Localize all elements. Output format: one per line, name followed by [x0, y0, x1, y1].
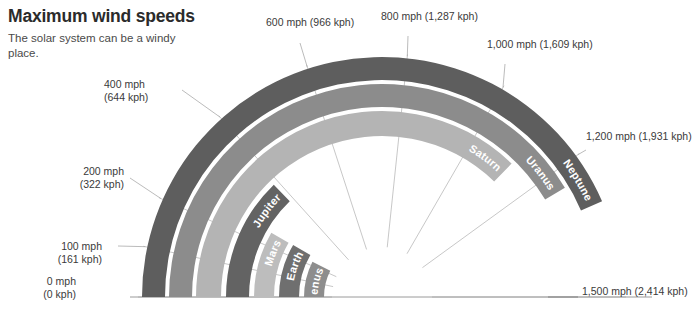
axis-tick-400: 400 mph (644 kph)	[104, 78, 194, 103]
axis-tick-200-mph: 200 mph	[83, 165, 124, 177]
axis-tick-1200-mph: 1,200 mph	[586, 130, 636, 142]
axis-tick-1200: 1,200 mph (1,931 kph)	[586, 130, 686, 143]
leader-line-1200	[578, 150, 586, 155]
axis-tick-800-kph: (1,287 kph)	[425, 10, 478, 22]
axis-tick-100-mph: 100 mph	[61, 240, 102, 252]
leader-line-200	[130, 178, 161, 199]
gridline-800	[387, 54, 407, 247]
axis-tick-200: 200 mph (322 kph)	[4, 165, 124, 190]
leader-line-800	[407, 36, 408, 56]
axis-tick-100-kph: (161 kph)	[4, 253, 102, 266]
axis-tick-1500-mph: 1,500 mph	[582, 285, 632, 297]
leader-line-1000	[503, 64, 505, 87]
axis-tick-600: 600 mph (966 kph)	[266, 16, 356, 29]
axis-tick-600-mph: 600 mph	[266, 16, 307, 28]
axis-tick-400-kph: (644 kph)	[104, 91, 194, 104]
axis-tick-1200-kph: (1,931 kph)	[639, 130, 692, 142]
axis-tick-200-kph: (322 kph)	[4, 178, 124, 191]
axis-tick-0-kph: (0 kph)	[4, 288, 76, 301]
axis-tick-100: 100 mph (161 kph)	[4, 240, 102, 265]
axis-tick-800: 800 mph (1,287 kph)	[381, 10, 477, 23]
axis-tick-1000-mph: 1,000 mph	[487, 38, 537, 50]
axis-tick-400-mph: 400 mph	[104, 78, 145, 90]
axis-tick-800-mph: 800 mph	[381, 10, 422, 22]
chart-bands	[142, 57, 602, 297]
axis-tick-1500-kph: (2,414 kph)	[635, 285, 688, 297]
leader-line-600	[300, 43, 307, 67]
axis-tick-0: 0 mph (0 kph)	[4, 275, 76, 300]
leader-line-100	[118, 246, 145, 247]
axis-tick-1000-kph: (1,609 kph)	[540, 38, 593, 50]
axis-tick-1500: 1,500 mph (2,414 kph)	[582, 285, 682, 298]
axis-tick-0-mph: 0 mph	[47, 275, 76, 287]
axis-tick-600-kph: (966 kph)	[310, 16, 354, 28]
axis-tick-1000: 1,000 mph (1,609 kph)	[487, 38, 587, 51]
